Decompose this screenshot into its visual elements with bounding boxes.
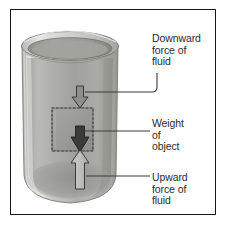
- label-weight-of-object: Weight of object: [152, 118, 184, 153]
- submerged-cube: [52, 108, 93, 151]
- label-downward-force-of-fluid: Downward force of fluid: [152, 33, 201, 68]
- figure-page: Downward force of fluid Weight of object…: [0, 0, 232, 233]
- label-upward-force-of-fluid: Upward force of fluid: [152, 172, 188, 207]
